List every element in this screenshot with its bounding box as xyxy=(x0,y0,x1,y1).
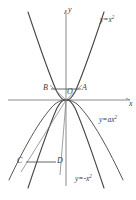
parabola-figure: y x O A B C D y=x2 y=ax2 y=-x2 xyxy=(0,0,136,200)
equation-label-middle: y=ax2 xyxy=(99,116,117,124)
equation-lower-base: y=-x xyxy=(75,174,89,183)
equation-label-upper: y=x2 xyxy=(100,16,114,24)
equation-lower-exponent: 2 xyxy=(89,173,92,179)
equation-middle-exponent: 2 xyxy=(114,114,117,120)
point-label-c: C xyxy=(17,157,22,165)
equation-middle-base: y=ax xyxy=(99,115,114,124)
ray-origin-to-b xyxy=(50,85,66,100)
figure-canvas xyxy=(0,0,136,200)
equation-upper-exponent: 2 xyxy=(112,14,115,20)
origin-label: O xyxy=(67,88,73,96)
equation-upper-base: y=x xyxy=(100,15,112,24)
x-axis-label: x xyxy=(129,100,133,108)
point-label-b: B xyxy=(43,84,48,92)
y-axis-label: y xyxy=(68,6,72,14)
equation-label-lower: y=-x2 xyxy=(75,175,92,183)
point-label-a: A xyxy=(82,84,87,92)
point-label-d: D xyxy=(57,157,63,165)
